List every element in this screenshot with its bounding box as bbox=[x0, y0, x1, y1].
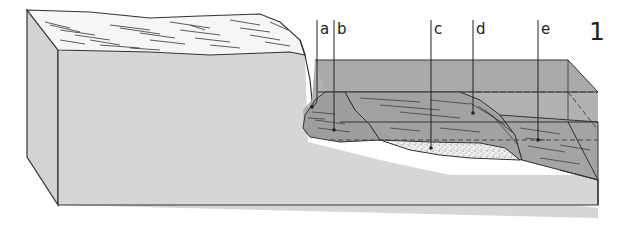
label-letter-d: d bbox=[476, 20, 486, 38]
block-front-lower bbox=[58, 175, 598, 205]
figure-number: 1 bbox=[589, 17, 605, 46]
label-letter-a: a bbox=[320, 20, 329, 38]
land-surface bbox=[27, 10, 305, 55]
label-letter-b: b bbox=[337, 20, 347, 38]
label-letter-e: e bbox=[541, 20, 550, 38]
label-letter-c: c bbox=[434, 20, 442, 38]
cliff-block-diagram: a b c d e 1 bbox=[0, 0, 619, 230]
